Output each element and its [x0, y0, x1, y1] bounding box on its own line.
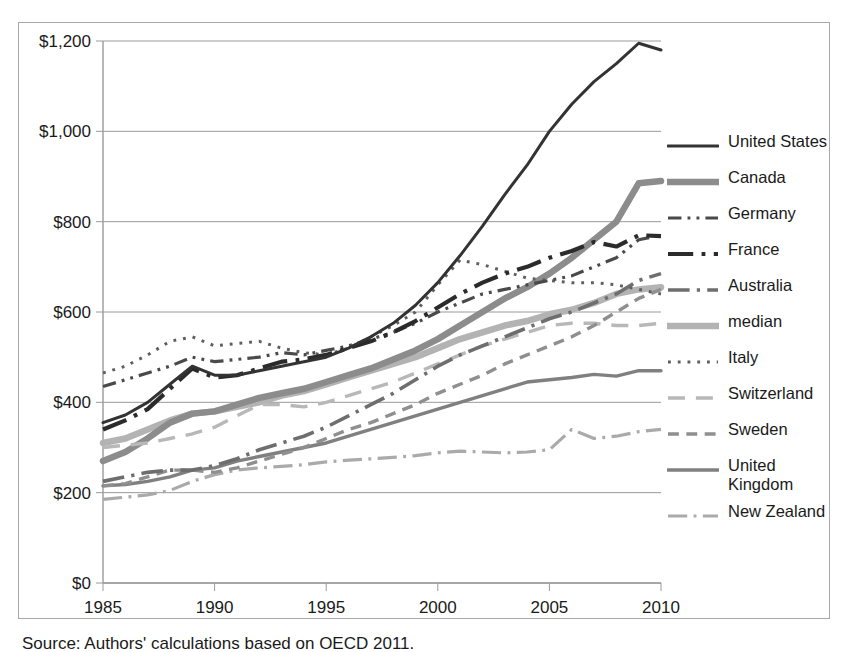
legend-label: Sweden — [728, 419, 788, 439]
series-line-sweden — [103, 289, 661, 485]
y-axis-tick-label: $1,000 — [39, 122, 91, 141]
legend-swatch — [667, 140, 719, 152]
legend-swatch — [667, 320, 719, 332]
series-line-new-zealand — [103, 429, 661, 499]
y-axis-tick-label: $200 — [53, 484, 91, 503]
legend-item-canada[interactable]: Canada — [667, 167, 842, 203]
x-axis-tick-label: 2010 — [642, 598, 680, 617]
x-axis-tick-label: 1995 — [307, 598, 345, 617]
legend-item-united-kingdom[interactable]: United Kingdom — [667, 455, 842, 501]
legend-label: median — [728, 311, 782, 331]
y-axis-tick-label: $400 — [53, 393, 91, 412]
legend-swatch — [667, 176, 719, 188]
legend-label: United States — [728, 131, 827, 151]
x-axis-tick-label: 1985 — [84, 598, 122, 617]
legend-item-australia[interactable]: Australia — [667, 275, 842, 311]
y-axis-tick-label: $0 — [72, 574, 91, 593]
legend-item-new-zealand[interactable]: New Zealand — [667, 501, 842, 537]
y-axis-tick-label: $800 — [53, 213, 91, 232]
chart-legend: United StatesCanadaGermanyFranceAustrali… — [667, 131, 842, 537]
legend-label: United Kingdom — [728, 455, 793, 494]
y-axis-tick-label: $1,200 — [39, 32, 91, 51]
legend-label: Switzerland — [728, 383, 813, 403]
legend-item-united-states[interactable]: United States — [667, 131, 842, 167]
series-line-switzerland — [103, 323, 661, 447]
legend-item-france[interactable]: France — [667, 239, 842, 275]
legend-item-italy[interactable]: Italy — [667, 347, 842, 383]
legend-item-median[interactable]: median — [667, 311, 842, 347]
legend-label: France — [728, 239, 779, 259]
y-axis-tick-label: $600 — [53, 303, 91, 322]
legend-swatch — [667, 510, 719, 522]
legend-swatch — [667, 428, 719, 440]
x-axis-tick-label: 1990 — [196, 598, 234, 617]
legend-item-sweden[interactable]: Sweden — [667, 419, 842, 455]
legend-label: Germany — [728, 203, 796, 223]
legend-label: Canada — [728, 167, 786, 187]
figure-frame: $0$200$400$600$800$1,000$1,2001985199019… — [18, 22, 830, 619]
x-axis-tick-label: 2005 — [530, 598, 568, 617]
source-caption: Source: Authors' calculations based on O… — [22, 634, 414, 652]
legend-item-switzerland[interactable]: Switzerland — [667, 383, 842, 419]
legend-item-germany[interactable]: Germany — [667, 203, 842, 239]
legend-swatch — [667, 392, 719, 404]
series-line-canada — [103, 181, 661, 461]
x-axis-tick-label: 2000 — [419, 598, 457, 617]
legend-swatch — [667, 356, 719, 368]
legend-label: Australia — [728, 275, 792, 295]
legend-label: New Zealand — [728, 501, 825, 521]
legend-swatch — [667, 248, 719, 260]
legend-swatch — [667, 284, 719, 296]
legend-swatch — [667, 464, 719, 476]
legend-label: Italy — [728, 347, 758, 367]
legend-swatch — [667, 212, 719, 224]
series-line-italy — [103, 260, 661, 373]
